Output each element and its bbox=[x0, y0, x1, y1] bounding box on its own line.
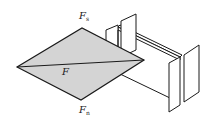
label-force-n-main: F bbox=[79, 104, 86, 115]
label-force-n-sub: n bbox=[86, 109, 90, 116]
back-plate bbox=[184, 45, 199, 102]
label-force-resultant-main: F bbox=[62, 66, 69, 77]
front-plate bbox=[169, 57, 180, 112]
label-force-s-sub: s bbox=[86, 15, 89, 22]
label-force-resultant: F bbox=[62, 67, 69, 77]
label-force-s-main: F bbox=[79, 10, 86, 21]
label-force-n: Fn bbox=[79, 105, 90, 116]
label-force-s: Fs bbox=[79, 11, 89, 22]
force-diagram bbox=[0, 0, 215, 123]
